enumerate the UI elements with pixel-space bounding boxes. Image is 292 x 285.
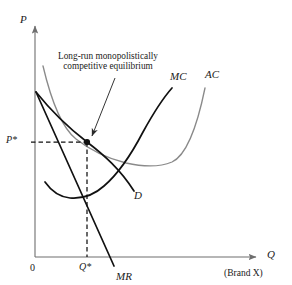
annotation-line-1: Long-run monopolistically xyxy=(42,51,174,61)
guide-lines-group xyxy=(31,142,87,257)
annotation-text: Long-run monopolistically competitive eq… xyxy=(42,51,174,72)
curve-label-d: D xyxy=(134,189,142,201)
marginal-cost-curve xyxy=(45,88,172,198)
curve-label-mc: MC xyxy=(170,70,187,82)
annotation-line-2: competitive equilibrium xyxy=(42,61,174,71)
x-tick-label-quantity: Q* xyxy=(79,261,91,272)
y-axis-label: P xyxy=(20,13,27,25)
economics-diagram: P Q 0 P* Q* MC AC D MR Long-run monopoli… xyxy=(0,0,292,285)
y-tick-label-price: P* xyxy=(6,134,17,145)
annotation-arrow xyxy=(92,78,115,136)
curve-label-ac: AC xyxy=(205,68,219,80)
x-axis-label: Q xyxy=(267,248,275,260)
equilibrium-point xyxy=(84,139,90,145)
curve-label-mr: MR xyxy=(116,270,132,282)
diagram-canvas xyxy=(0,0,292,285)
footnote-brand: (Brand X) xyxy=(224,268,263,279)
origin-label: 0 xyxy=(30,262,35,273)
marginal-revenue-curve xyxy=(36,92,114,266)
